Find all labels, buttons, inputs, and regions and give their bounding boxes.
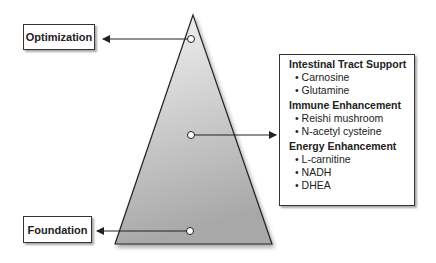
list-item: NADH bbox=[295, 166, 414, 179]
list-item: Glutamine bbox=[295, 84, 414, 97]
bottom-node bbox=[187, 228, 194, 235]
list-item: N-acetyl cysteine bbox=[295, 125, 414, 138]
middle-node bbox=[188, 132, 195, 139]
section-title: Immune Enhancement bbox=[289, 99, 414, 112]
list-item: L-carnitine bbox=[295, 153, 414, 166]
info-box: Intestinal Tract Support Carnosine Gluta… bbox=[279, 54, 415, 206]
list-item: Reishi mushroom bbox=[295, 112, 414, 125]
list-item: DHEA bbox=[295, 179, 414, 192]
section-list: Reishi mushroom N-acetyl cysteine bbox=[289, 112, 414, 138]
section-title: Intestinal Tract Support bbox=[289, 58, 414, 71]
list-item: Carnosine bbox=[295, 71, 414, 84]
section-list: L-carnitine NADH DHEA bbox=[289, 153, 414, 192]
foundation-label: Foundation bbox=[23, 216, 92, 243]
section-title: Energy Enhancement bbox=[289, 140, 414, 153]
pyramid-triangle bbox=[115, 15, 272, 244]
top-node bbox=[188, 36, 195, 43]
optimization-label: Optimization bbox=[23, 24, 95, 50]
section-list: Carnosine Glutamine bbox=[289, 71, 414, 97]
